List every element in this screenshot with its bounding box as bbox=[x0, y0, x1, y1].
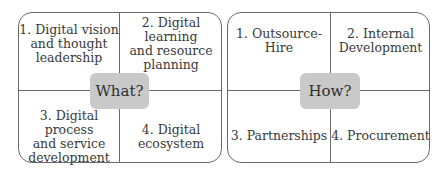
quadrant-2: 2. InternalDevelopment bbox=[331, 23, 430, 59]
quadrant-3: 3. Partnerships bbox=[228, 125, 330, 147]
quadrant-4: 4. Procurement bbox=[331, 125, 430, 147]
quadrant-1: 1. Digital visionand thoughtleadership bbox=[19, 19, 119, 69]
quadrant-1: 1. Outsource-Hire bbox=[228, 23, 330, 59]
quadrant-4: 4. Digitalecosystem bbox=[120, 113, 222, 161]
center-label-what: What? bbox=[90, 73, 149, 109]
quadrant-3: 3. Digital processand servicedevelopment bbox=[19, 113, 119, 161]
how-diagram: 1. Outsource-Hire 2. InternalDevelopment… bbox=[227, 12, 430, 163]
center-label-how: How? bbox=[300, 73, 360, 109]
what-diagram: 1. Digital visionand thoughtleadership 2… bbox=[18, 12, 222, 163]
quadrant-2: 2. Digital learningand resourceplanning bbox=[120, 19, 222, 69]
